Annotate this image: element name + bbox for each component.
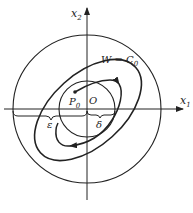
delta-brace	[87, 111, 115, 118]
phase-plane-diagram: x2 x1 W = C0 P0 O δ ε	[0, 0, 193, 213]
x2-axis-label: x2	[71, 7, 82, 22]
epsilon-label: ε	[47, 119, 52, 130]
level-curve-ellipse	[16, 40, 159, 179]
origin-label: O	[89, 95, 97, 106]
delta-label: δ	[96, 119, 102, 130]
x1-axis-label: x1	[180, 94, 191, 109]
start-point-label: P0	[68, 96, 81, 110]
trajectory	[56, 80, 121, 146]
trajectory-segment-3	[56, 123, 70, 146]
level-set-label: W = C0	[101, 54, 139, 68]
